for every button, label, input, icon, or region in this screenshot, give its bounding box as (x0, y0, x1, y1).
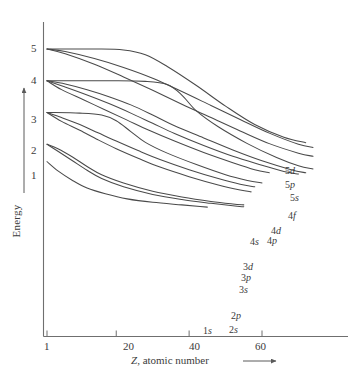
curve-label-1s: 1s (203, 326, 212, 336)
curve-label-4s: 4s (250, 237, 259, 247)
ytick-label-4: 4 (31, 75, 37, 86)
curve-group (47, 49, 313, 207)
curve-label-2s-l: s (234, 324, 238, 335)
xtick-label-40: 40 (189, 341, 200, 352)
curve-label-2p-l: p (236, 310, 241, 321)
curve-label-3d: 3d (243, 262, 253, 272)
x-axis-title-text: , atomic number (137, 354, 209, 366)
curve-label-5s: 5s (290, 193, 299, 203)
curve-label-4s-l: s (255, 236, 259, 247)
curve-label-4f: 4f (288, 211, 296, 221)
ytick-label-5: 5 (31, 43, 37, 54)
curve-label-4p-l: p (272, 235, 277, 246)
curve-label-3s: 3s (239, 285, 248, 295)
curve-label-4f-l: f (293, 210, 296, 221)
curve-5s (47, 49, 313, 156)
xtick-label-20: 20 (123, 341, 134, 352)
curve-label-1s-l: s (208, 325, 212, 336)
curve-label-2s: 2s (229, 325, 238, 335)
curve-label-5d: 5d (285, 166, 295, 176)
curve-label-3p: 3p (241, 273, 251, 283)
ytick-label-1: 1 (31, 170, 37, 181)
curve-4f (47, 81, 313, 169)
chart-canvas (0, 0, 363, 373)
curve-label-3s-l: s (244, 284, 248, 295)
curve-label-3d-l: d (248, 261, 253, 272)
ytick-label-3: 3 (31, 114, 37, 125)
curve-label-4p: 4p (267, 236, 277, 246)
curve-5d (47, 49, 306, 143)
curve-label-5s-l: s (295, 192, 299, 203)
curve-label-5p: 5p (285, 180, 295, 190)
x-axis-title: Z, atomic number (131, 355, 209, 366)
ytick-label-2: 2 (31, 145, 37, 156)
xtick-label-1: 1 (44, 341, 50, 352)
curve-label-2p: 2p (231, 311, 241, 321)
curve-label-5d-l: d (290, 165, 295, 176)
xtick-label-60: 60 (255, 341, 266, 352)
y-axis-title: Energy (10, 191, 22, 251)
curve-label-5p-l: p (290, 179, 295, 190)
orbital-energy-chart: Energy 5 4 3 2 1 1 20 40 60 Z, atomic nu… (0, 0, 363, 373)
axes (24, 22, 348, 361)
curve-label-3p-l: p (246, 272, 251, 283)
curve-3d (47, 113, 262, 183)
